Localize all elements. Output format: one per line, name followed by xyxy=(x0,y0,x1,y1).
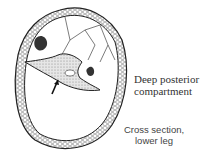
compartment-label: Deep posterior compartment xyxy=(134,73,224,97)
neurovascular-bundle xyxy=(65,70,75,76)
leg-cross-section-diagram: Deep posterior compartment Cross section… xyxy=(0,0,224,158)
compartment-label-line1: Deep posterior xyxy=(134,73,224,85)
caption-line1: Cross section, xyxy=(114,124,194,135)
diagram-caption: Cross section, lower leg xyxy=(114,124,194,146)
caption-line2: lower leg xyxy=(114,135,194,146)
compartment-label-line2: compartment xyxy=(134,85,224,97)
